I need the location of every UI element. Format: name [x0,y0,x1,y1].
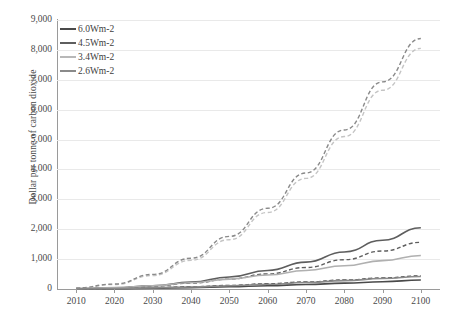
x-tick-mark [344,289,345,293]
x-tick-mark [229,289,230,293]
y-tick-label: 5,000 [0,134,52,144]
series-line [76,39,421,288]
x-tick-mark [153,289,154,293]
plot-area [57,20,440,289]
legend-label-26: 2.6Wm-2 [78,66,114,76]
legend-label-45: 4.5Wm-2 [78,38,114,48]
x-tick-mark [191,289,192,293]
legend-swatch-26 [60,70,76,72]
legend-item-34[interactable]: 3.4Wm-2 [60,50,114,64]
legend-item-26[interactable]: 2.6Wm-2 [60,64,114,78]
y-tick-label: 7,000 [0,74,52,84]
carbon-price-chart: Dollar per tonne of carbon dioxide 01,00… [0,0,460,322]
series-line [76,48,421,288]
y-tick-label: 8,000 [0,44,52,54]
x-tick-mark [306,289,307,293]
legend-label-34: 3.4Wm-2 [78,52,114,62]
x-tick-mark [421,289,422,293]
x-tick-mark [76,289,77,293]
legend: 6.0Wm-2 4.5Wm-2 3.4Wm-2 2.6Wm-2 [60,22,114,78]
legend-swatch-60 [60,28,76,30]
y-tick-label: 1,000 [0,253,52,263]
x-tick-mark [268,289,269,293]
y-tick-label: 0 [0,283,52,293]
series-lines [57,20,440,289]
legend-item-60[interactable]: 6.0Wm-2 [60,22,114,36]
y-tick-label: 2,000 [0,223,52,233]
y-tick-label: 3,000 [0,193,52,203]
series-line [76,256,421,289]
legend-label-60: 6.0Wm-2 [78,24,114,34]
y-tick-label: 6,000 [0,104,52,114]
x-tick-mark [114,289,115,293]
x-tick-mark [383,289,384,293]
legend-swatch-45 [60,42,76,44]
legend-item-45[interactable]: 4.5Wm-2 [60,36,114,50]
y-tick-label: 4,000 [0,163,52,173]
y-tick-label: 9,000 [0,14,52,24]
legend-swatch-34 [60,56,76,58]
x-tick-label: 2100 [397,296,445,306]
